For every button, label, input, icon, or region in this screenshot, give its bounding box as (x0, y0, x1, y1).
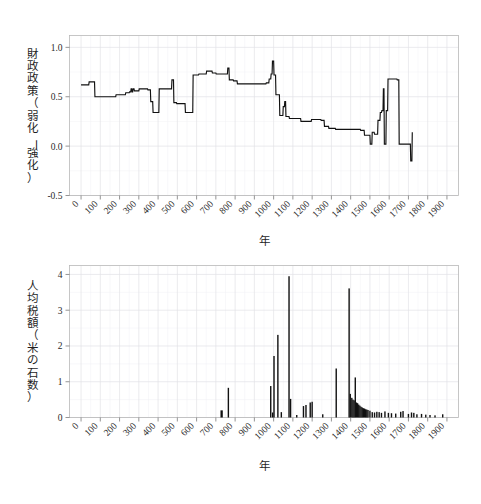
x-tick-label: 600 (179, 421, 196, 438)
x-tick-label: 0 (70, 199, 81, 210)
bar (281, 412, 282, 417)
bar (228, 388, 229, 418)
x-tick-label: 400 (140, 421, 157, 438)
tax-x-ticks: 0100200300400500600700800900100011001200… (70, 418, 447, 442)
x-tick-label: 1000 (253, 421, 274, 442)
bar (408, 414, 409, 418)
bar (381, 413, 382, 418)
x-tick-label: 900 (237, 421, 254, 438)
fiscal-y-axis-title: 財政政策（弱化ー強化） (27, 47, 44, 185)
bar (388, 413, 389, 418)
y-tick-label: 0.0 (51, 142, 63, 152)
x-tick-label: 1800 (407, 199, 428, 220)
bar (421, 414, 422, 418)
bar (322, 414, 323, 417)
bar (220, 410, 222, 417)
y-tick-label: 4 (58, 270, 63, 280)
bar (372, 412, 373, 417)
fiscal-grid-minor (70, 36, 459, 196)
tax-bars (220, 276, 443, 417)
y-tick-label: 1.0 (51, 43, 63, 53)
x-tick-label: 100 (83, 199, 100, 216)
tax-grid-minor (70, 266, 459, 418)
bar (402, 411, 403, 417)
x-tick-label: 1300 (310, 421, 331, 442)
tax-x-axis-title: 年 (259, 459, 270, 473)
y-tick-label: 1 (58, 377, 63, 387)
bar (290, 399, 291, 418)
x-tick-label: 100 (83, 421, 100, 438)
bar (416, 414, 417, 417)
bar (442, 414, 443, 417)
tax-y-ticks: 01234 (58, 270, 70, 423)
bar (413, 413, 414, 418)
y-axis-title-char: ） (27, 171, 38, 185)
tax-per-capita-chart: 01234 0100200300400500600700800900100011… (0, 252, 481, 504)
y-tick-label: 0.5 (51, 92, 63, 102)
x-tick-label: 0 (70, 421, 81, 432)
fiscal-x-ticks: 0100200300400500600700800900100011001200… (70, 196, 447, 220)
x-tick-label: 800 (217, 199, 234, 216)
x-tick-label: 1200 (291, 421, 312, 442)
x-tick-label: 1700 (387, 199, 408, 220)
bar (288, 276, 289, 417)
fiscal-policy-chart: -0.50.00.51.0 01002003004005006007008009… (0, 0, 481, 252)
y-axis-title-char: ） (27, 390, 38, 404)
x-tick-label: 1900 (426, 199, 447, 220)
bar (369, 411, 370, 418)
fiscal-x-axis-title: 年 (259, 234, 270, 248)
tax-y-axis-title: 人均税額（米の石数） (27, 279, 39, 405)
bar (311, 402, 312, 418)
y-tick-label: 2 (58, 341, 63, 351)
x-tick-label: 1900 (426, 421, 447, 442)
bar (425, 415, 426, 418)
x-tick-label: 900 (237, 199, 254, 216)
bar (411, 412, 412, 417)
y-tick-label: 0 (58, 413, 63, 423)
bar (429, 415, 430, 418)
x-tick-label: 800 (217, 421, 234, 438)
x-tick-label: 1100 (272, 199, 292, 219)
bar (378, 412, 379, 417)
bar (384, 411, 385, 417)
x-tick-label: 1000 (253, 199, 274, 220)
x-tick-label: 1500 (349, 199, 370, 220)
bar (367, 410, 368, 418)
y-axis-title-char: 化 (27, 121, 39, 135)
x-tick-label: 600 (179, 199, 196, 216)
x-tick-label: 1500 (349, 421, 370, 442)
x-tick-label: 200 (102, 199, 119, 216)
x-tick-label: 400 (140, 199, 157, 216)
x-tick-label: 200 (102, 421, 119, 438)
bar (391, 413, 392, 417)
bar (350, 394, 351, 418)
bar (303, 406, 304, 417)
x-tick-label: 1100 (272, 421, 292, 441)
bar (374, 412, 375, 417)
x-tick-label: 1200 (291, 199, 312, 220)
x-tick-label: 700 (198, 421, 215, 438)
bar (376, 412, 377, 418)
x-tick-label: 1400 (330, 421, 351, 442)
bar (272, 412, 273, 417)
x-tick-label: 300 (121, 199, 138, 216)
bar (395, 414, 396, 418)
x-tick-label: 1800 (407, 421, 428, 442)
x-tick-label: 500 (160, 199, 177, 216)
y-tick-label: -0.5 (47, 191, 62, 201)
x-tick-label: 500 (160, 421, 177, 438)
x-tick-label: 700 (198, 199, 215, 216)
x-tick-label: 1300 (310, 199, 331, 220)
x-tick-label: 300 (121, 421, 138, 438)
bar (310, 402, 311, 417)
x-tick-label: 1600 (368, 421, 389, 442)
bar (277, 335, 278, 418)
y-tick-label: 3 (58, 306, 63, 316)
tax-per-capita-plot: 01234 0100200300400500600700800900100011… (0, 252, 481, 504)
x-tick-label: 1400 (330, 199, 351, 220)
bar (400, 412, 401, 418)
fiscal-y-ticks: -0.50.00.51.0 (47, 43, 69, 201)
bar (434, 415, 435, 417)
bar (305, 405, 306, 418)
fiscal-policy-plot: -0.50.00.51.0 01002003004005006007008009… (0, 0, 481, 252)
